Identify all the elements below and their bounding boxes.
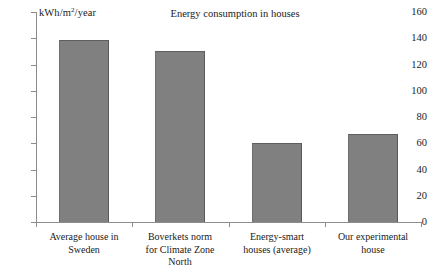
x-axis-category-label-line: Energy-smart [226, 231, 328, 244]
x-axis-tick [36, 222, 37, 227]
x-axis-category-label-line: Our experimental [322, 231, 424, 244]
x-axis-category-label-line: house [322, 244, 424, 257]
y-axis-tick [31, 12, 36, 13]
x-axis-category-label: Our experimentalhouse [322, 231, 424, 256]
x-axis-tick [421, 222, 422, 227]
y-axis-tick [31, 38, 36, 39]
y-axis-tick [31, 65, 36, 66]
bar [348, 134, 398, 222]
y-axis-tick [31, 170, 36, 171]
y-axis-tick-label: 120 [401, 60, 427, 71]
y-axis-tick [31, 91, 36, 92]
x-axis-tick [229, 222, 230, 227]
x-axis-category-label-line: Average house in [33, 231, 135, 244]
x-axis-category-label: Boverkets normfor Climate ZoneNorth [129, 231, 231, 269]
x-axis-category-label-line: Sweden [33, 244, 135, 257]
y-axis-tick-label: 60 [401, 138, 427, 149]
x-axis-tick [325, 222, 326, 227]
y-axis-tick-label: 140 [401, 33, 427, 44]
y-axis-tick-label: 160 [401, 7, 427, 18]
y-axis-tick [31, 117, 36, 118]
y-axis-tick-label: 80 [401, 112, 427, 123]
x-axis-category-label: Average house inSweden [33, 231, 135, 256]
y-axis-tick [31, 196, 36, 197]
y-axis-tick-label: 100 [401, 86, 427, 97]
y-axis-tick-label: 0 [401, 217, 427, 228]
bar-chart: kWh/m2/year Energy consumption in houses… [0, 0, 427, 277]
x-axis-category-label: Energy-smarthouses (average) [226, 231, 328, 256]
y-axis-line [36, 12, 37, 223]
y-axis-tick-label: 20 [401, 191, 427, 202]
y-axis-unit-label: kWh/m2/year [39, 7, 96, 19]
y-axis-tick-label: 40 [401, 165, 427, 176]
x-axis-category-label-line: Boverkets norm [129, 231, 231, 244]
x-axis-category-label-line: North [129, 256, 231, 269]
x-axis-tick [132, 222, 133, 227]
chart-title: Energy consumption in houses [140, 8, 330, 20]
y-axis-unit-tail: /year [75, 7, 97, 18]
y-axis-tick [31, 143, 36, 144]
x-axis-category-label-line: for Climate Zone [129, 244, 231, 257]
bar [59, 40, 109, 222]
bar [155, 51, 205, 222]
y-axis-unit-head: kWh/m [39, 7, 71, 18]
bar [252, 143, 302, 222]
x-axis-category-label-line: houses (average) [226, 244, 328, 257]
